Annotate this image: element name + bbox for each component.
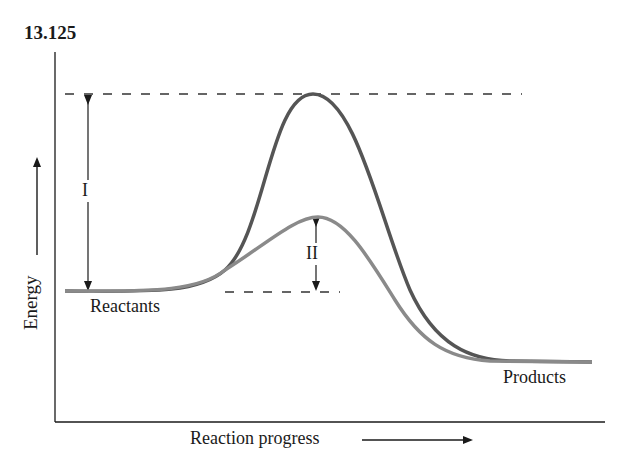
- label-II: II: [306, 243, 318, 264]
- uncatalyzed-curve: [65, 94, 592, 362]
- x-axis-label: Reaction progress: [190, 428, 319, 449]
- catalyzed-curve: [65, 217, 592, 362]
- products-label: Products: [503, 367, 566, 388]
- reactants-label: Reactants: [90, 296, 160, 317]
- y-axis-label: Energy: [20, 275, 42, 330]
- label-I: I: [82, 180, 88, 201]
